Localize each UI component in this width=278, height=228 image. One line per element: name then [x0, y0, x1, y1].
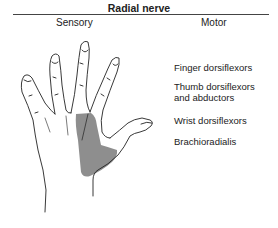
- motor-item-finger-dorsiflexors: Finger dorsiflexors: [174, 62, 252, 73]
- motor-item-label: Thumb dorsiflexors: [174, 81, 255, 92]
- sensory-shaded-region: [76, 113, 117, 177]
- hand-illustration: [0, 0, 278, 228]
- motor-item-label: Brachioradialis: [174, 136, 236, 147]
- motor-item-label: Finger dorsiflexors: [174, 62, 252, 73]
- motor-item-label-line2: and abductors: [174, 92, 255, 103]
- motor-item-thumb-dorsiflexors: Thumb dorsiflexors and abductors: [174, 81, 255, 103]
- motor-item-wrist-dorsiflexors: Wrist dorsiflexors: [174, 115, 247, 126]
- motor-item-brachioradialis: Brachioradialis: [174, 136, 236, 147]
- motor-item-label: Wrist dorsiflexors: [174, 115, 247, 126]
